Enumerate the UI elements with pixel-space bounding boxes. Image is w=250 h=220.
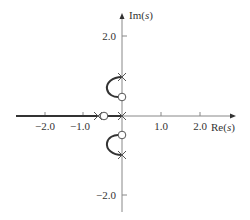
- imag-axis-arrow-icon: [120, 13, 125, 19]
- zero-circle-icon: [118, 131, 126, 139]
- y-axis-label: Im(s): [129, 9, 153, 22]
- x-tick-label: −2.0: [35, 120, 55, 132]
- y-tick-label: 2.0: [102, 30, 116, 42]
- real-axis-arrow-icon: [230, 114, 236, 119]
- x-tick-label: 1.0: [154, 120, 168, 132]
- root-locus-plot: −2.0 −1.0 1.0 2.0 2.0 −2.0 Re(s) Im(s): [0, 0, 250, 220]
- y-tick-label: −2.0: [96, 189, 116, 201]
- x-tick-label: 2.0: [193, 120, 207, 132]
- x-axis-label: Re(s): [211, 121, 235, 134]
- zero-circle-icon: [118, 93, 126, 101]
- x-tick-label: −1.0: [70, 120, 90, 132]
- zero-circle-icon: [100, 112, 108, 120]
